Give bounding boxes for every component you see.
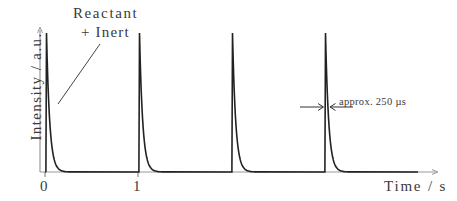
x-tick-label-0: 0: [40, 178, 48, 195]
annotation-reactant: Reactant: [73, 5, 138, 22]
pulse-width-annotation: approx. 250 µs: [339, 96, 406, 107]
annotation-leader-line: [58, 44, 100, 104]
x-tick-label-1: 1: [133, 178, 141, 195]
annotation-inert: + Inert: [81, 24, 130, 41]
y-axis-label: Intensity / a.u.: [28, 27, 45, 147]
x-axis-label: Time / s: [384, 178, 447, 195]
